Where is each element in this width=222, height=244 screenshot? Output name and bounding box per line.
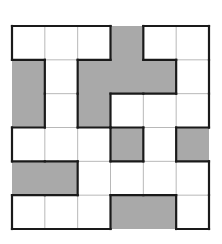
grid-lines (10, 24, 211, 231)
puzzle-grid (12, 26, 209, 229)
